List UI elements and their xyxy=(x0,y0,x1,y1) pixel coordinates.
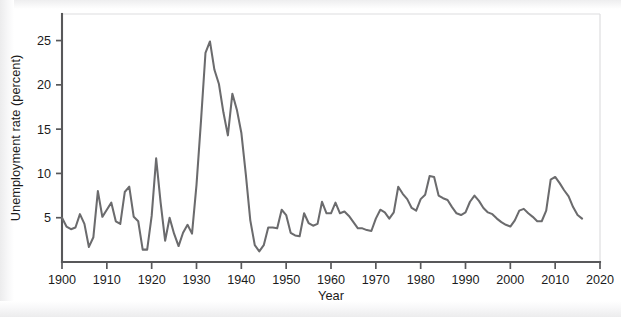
y-tick-label: 20 xyxy=(37,78,51,92)
x-tick-label: 1950 xyxy=(272,273,300,287)
x-tick-label: 1910 xyxy=(93,273,121,287)
x-tick-label: 1960 xyxy=(317,273,345,287)
y-tick-label: 15 xyxy=(37,123,51,137)
x-tick-label: 1900 xyxy=(48,273,76,287)
x-tick-label: 1990 xyxy=(451,273,479,287)
y-axis-title: Unemployment rate (percent) xyxy=(8,55,23,221)
x-tick-label: 1940 xyxy=(227,273,255,287)
x-tick-label: 1930 xyxy=(182,273,210,287)
plot-area-background xyxy=(62,14,600,262)
x-tick-label: 1920 xyxy=(138,273,166,287)
x-tick-label: 1980 xyxy=(407,273,435,287)
y-axis-ticks: 510152025 xyxy=(37,34,62,225)
y-tick-label: 5 xyxy=(44,211,51,225)
x-tick-label: 2000 xyxy=(496,273,524,287)
x-axis-ticks: 1900191019201930194019501960197019801990… xyxy=(48,262,614,287)
unemployment-rate-line-chart: 510152025 190019101920193019401950196019… xyxy=(0,0,621,317)
x-tick-label: 2020 xyxy=(586,273,614,287)
x-axis-title: Year xyxy=(318,288,345,303)
x-tick-label: 2010 xyxy=(541,273,569,287)
chart-page: 510152025 190019101920193019401950196019… xyxy=(0,0,621,317)
x-tick-label: 1970 xyxy=(362,273,390,287)
y-tick-label: 25 xyxy=(37,34,51,48)
y-tick-label: 10 xyxy=(37,167,51,181)
